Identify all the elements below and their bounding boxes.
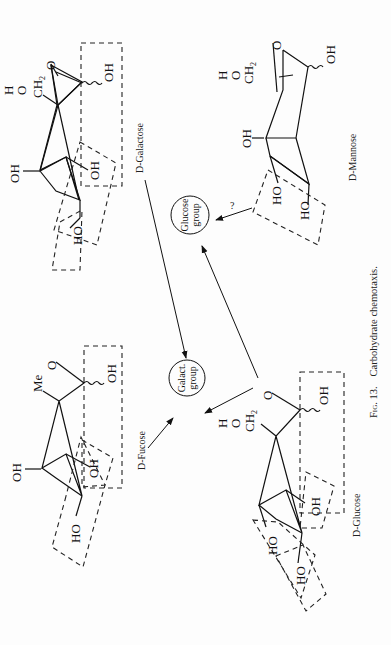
glucose-c4-ho-label: HO <box>293 566 308 585</box>
mannose-c2-ho-label: HO <box>297 201 312 220</box>
fucose-anomeric-oh-label: OH <box>104 364 119 383</box>
mannose-ring-o-label: O <box>269 41 284 50</box>
glucose-name: D-Glucose <box>351 493 362 537</box>
figure-page: H O CH2 O OH OH OH HO D-Galactose H O CH… <box>0 0 391 645</box>
fucose-name: D-Fucose <box>136 431 147 470</box>
galactose-name: D-Galactose <box>134 122 145 173</box>
glucose-group-receptor: Glucose group <box>171 196 209 234</box>
fucose-ring-o-label: O <box>44 361 59 370</box>
mannose-ch2-label: CH2 <box>241 62 258 84</box>
galactose-anomeric-oh-label: OH <box>101 63 116 82</box>
galactose-ring-o-label: O <box>43 61 58 70</box>
glucose-ch2-label: CH2 <box>242 410 259 432</box>
glucose-to-galact-arrow <box>205 388 253 413</box>
galactose-o-label: O <box>14 86 29 95</box>
glucose-o-label: O <box>228 419 243 428</box>
caption-text: Fig. 13.Carbohydrate chemotaxis. <box>368 266 379 418</box>
fucose-c2-ho-label: HO <box>68 524 83 543</box>
glucose-group-line1: Glucose <box>179 198 190 231</box>
glucose-to-glucose-group-arrow <box>202 246 258 378</box>
glucose-group-line2: group <box>190 203 201 226</box>
galact-group-line2: group <box>187 366 198 389</box>
fucose-c2-box <box>52 437 105 567</box>
figure-caption: Fig. 13.Carbohydrate chemotaxis. <box>368 266 379 418</box>
question-mark: ? <box>230 200 235 211</box>
mannose-name: D-Mannose <box>347 133 358 181</box>
galact-group-receptor: Galact. group <box>169 360 205 396</box>
galactose-ch2-label: CH2 <box>30 76 47 98</box>
carbohydrate-chemotaxis-diagram: H O CH2 O OH OH OH HO D-Galactose H O CH… <box>0 0 391 645</box>
glucose-c3-ho-label: HO <box>265 536 280 555</box>
glucose-c2-oh-label: OH <box>308 497 323 516</box>
galact-group-line1: Galact. <box>176 364 187 393</box>
mannose-c4-oh-label: OH <box>239 129 254 148</box>
fucose-to-galact-arrow <box>148 418 173 448</box>
galactose-c3-oh-label: OH <box>87 161 102 180</box>
mannose-anomeric-oh-label: OH <box>323 45 338 64</box>
glucose-ring-o-label: O <box>260 391 275 400</box>
galactose-c2-ho-label: HO <box>70 226 85 245</box>
fucose-c3-oh-label: OH <box>86 459 101 478</box>
mannose-c3-ho-label: HO <box>269 186 284 205</box>
glucose-anomeric-oh-label: OH <box>316 386 331 405</box>
fucose-me-label: Me <box>30 374 45 392</box>
mannose-structure <box>252 43 323 205</box>
fucose-c4-oh-label: OH <box>9 463 24 482</box>
mannose-c2-c3-box <box>253 170 325 245</box>
glucose-c3-box <box>253 520 315 598</box>
galactose-c4-oh-label: OH <box>7 164 22 183</box>
